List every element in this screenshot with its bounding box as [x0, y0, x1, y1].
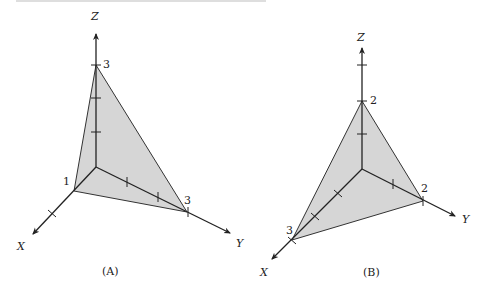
- y-intercept-label-b: 2: [421, 182, 428, 195]
- x-axis-label-b: X: [259, 266, 269, 279]
- z-intercept-label-b: 2: [370, 94, 377, 107]
- x-intercept-label-a: 1: [63, 175, 70, 188]
- y-axis-label-a: Y: [236, 237, 245, 250]
- caption-b: (B): [363, 266, 380, 279]
- panel-a: Z X Y 3 1 3 (A): [16, 10, 245, 278]
- x-axis-label-a: X: [16, 240, 26, 253]
- y-intercept-label-a: 3: [184, 194, 191, 207]
- x-intercept-label-b: 3: [286, 224, 293, 237]
- z-intercept-label-a: 3: [103, 58, 110, 71]
- z-axis-label-a: Z: [90, 10, 99, 23]
- panel-b: Z X Y 2 3 2 (B): [259, 31, 471, 279]
- plane-triangle-a: [74, 65, 187, 212]
- figure-canvas: Z X Y 3 1 3 (A) Z X Y 2 3 2 (B): [0, 0, 482, 292]
- y-axis-label-b: Y: [462, 213, 471, 226]
- caption-a: (A): [102, 265, 119, 278]
- z-axis-label-b: Z: [356, 31, 365, 44]
